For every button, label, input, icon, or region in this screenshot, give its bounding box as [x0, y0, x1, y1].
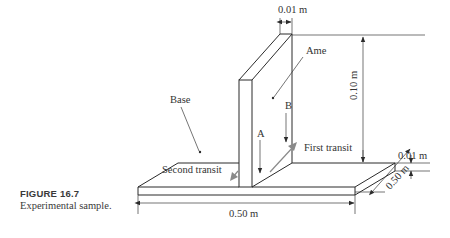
base-thickness-label: 0.01 m — [398, 150, 427, 161]
second-transit-arrow: Second transit — [162, 164, 238, 181]
base-width-dimension: 0.50 m — [138, 195, 355, 219]
plate-label-group: Ame — [272, 45, 327, 99]
plate-thickness-dimension: 0.01 m — [278, 4, 307, 34]
point-b-marker: B — [285, 100, 292, 142]
point-a-label: A — [257, 128, 265, 139]
base-width-label: 0.50 m — [229, 208, 258, 219]
plate-height-label: 0.10 m — [348, 71, 359, 100]
plate-thickness-label: 0.01 m — [278, 4, 307, 15]
second-transit-label: Second transit — [162, 164, 222, 175]
point-b-label: B — [285, 100, 292, 111]
base-depth-label: 0.50 m — [383, 162, 411, 191]
point-a-marker: A — [257, 128, 265, 173]
base-label-group: Base — [170, 94, 201, 153]
figure-number: FIGURE 16.7 — [20, 188, 79, 199]
base-name-label: Base — [170, 94, 191, 105]
figure-caption: Experimental sample. — [20, 200, 112, 211]
first-transit-arrow: First transit — [270, 142, 352, 172]
first-transit-label: First transit — [304, 142, 352, 153]
plate-name-label: Ame — [306, 45, 327, 56]
